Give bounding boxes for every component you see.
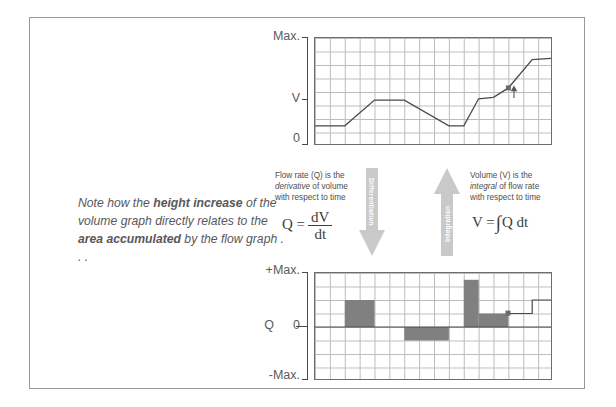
integration-arrow-caption: Integration: [444, 206, 451, 242]
integration-text-line2: integral of flow rate: [470, 181, 568, 192]
note-line3-suffix: by the: [181, 232, 218, 246]
differentiation-arrow: Differentiation: [359, 168, 385, 256]
flow-plot-area: [314, 272, 552, 380]
flow-tick-plus-max: [302, 272, 308, 273]
flow-axis-label-q: Q: [235, 318, 274, 332]
differentiation-text-line1: Flow rate (Q) is the: [275, 170, 368, 181]
integration-arrow: Integration: [434, 168, 460, 256]
flow-step-outline: [508, 300, 552, 327]
volume-axis-label-v: V: [251, 91, 300, 105]
volume-axis-label-max: Max.: [251, 29, 300, 43]
note-line1-prefix: Note how the: [78, 196, 153, 210]
volume-tick-max: [302, 37, 308, 38]
flow-bar: [345, 300, 375, 327]
volume-tick-zero: [302, 144, 308, 145]
derivative-numerator: dV: [308, 209, 332, 225]
volume-tick-v: [302, 99, 308, 100]
note-line3-prefix: to the: [237, 214, 268, 228]
flow-axis-label-minus-max: -Max.: [242, 368, 300, 382]
integration-description: Volume (V) is the integral of flow rate …: [470, 170, 568, 204]
differentiation-emphasis: derivative: [275, 182, 310, 191]
differentiation-description: Flow rate (Q) is the derivative of volum…: [275, 170, 368, 204]
volume-chart: Max. V 0: [30, 18, 586, 163]
flow-tick-zero: [296, 326, 308, 327]
integration-formula-lhs: V =: [472, 214, 495, 230]
differentiation-formula: Q =dVdt: [282, 209, 332, 242]
integration-text-line2-rest: of flow rate: [497, 182, 539, 191]
flow-axis-label-zero: 0: [270, 318, 300, 332]
slide-frame: Note how the height increase of the volu…: [29, 17, 585, 389]
volume-up-arrow-annotation: [511, 86, 518, 99]
integration-text-line3: with respect to time: [470, 192, 568, 203]
differentiation-formula-lhs: Q =: [282, 216, 305, 232]
flow-bars-layer: [315, 273, 552, 380]
differentiation-text-line2-rest: of volume: [310, 182, 348, 191]
integral-sign: ∫: [495, 212, 502, 233]
note-line1-suffix: of: [243, 196, 257, 210]
flow-point-marker: [506, 311, 511, 316]
note-emphasis-area-accumulated: area accumulated: [78, 232, 181, 246]
derivative-fraction: dVdt: [308, 209, 332, 242]
flow-chart: +Max. Q 0 -Max.: [30, 256, 586, 386]
differentiation-text-line2: derivative of volume: [275, 181, 368, 192]
note-emphasis-height-increase: height increase: [153, 196, 242, 210]
volume-point-marker: [506, 85, 511, 90]
flow-axis-label-plus-max: +Max.: [242, 263, 300, 277]
volume-trace: [315, 58, 552, 126]
flow-tick-minus-max: [302, 379, 308, 380]
flow-bar: [479, 314, 509, 328]
integration-formula: V =∫Q dt: [472, 212, 528, 234]
volume-trace-layer: [315, 38, 552, 145]
volume-axis-label-zero: 0: [251, 131, 300, 145]
integration-formula-rhs: Q dt: [502, 214, 528, 230]
flow-bar: [464, 280, 479, 327]
integration-text-line1: Volume (V) is the: [470, 170, 568, 181]
differentiation-arrow-caption: Differentiation: [368, 178, 375, 226]
volume-plot-area: [314, 37, 552, 145]
differentiation-text-line3: with respect to time: [275, 192, 368, 203]
flow-bar: [404, 327, 449, 341]
integration-emphasis: integral: [470, 182, 497, 191]
volume-y-axis-spine: [307, 37, 308, 145]
screenshot-page: Note how the height increase of the volu…: [0, 0, 616, 407]
derivative-denominator: dt: [308, 225, 332, 242]
